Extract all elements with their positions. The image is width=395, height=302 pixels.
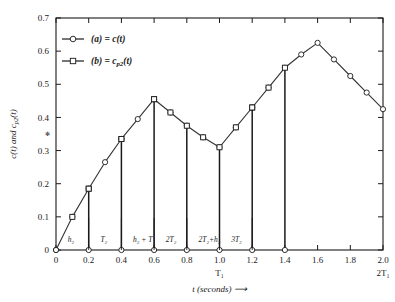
data-point-b [184,123,189,128]
data-point-b [266,85,271,90]
data-point-a [331,57,336,62]
annotation-label: 2T₂+h₂ [199,235,221,244]
x-tick-label: 1.6 [312,255,324,265]
data-point-b [152,97,157,102]
data-point-b [168,110,173,115]
legend-marker-circle [70,36,76,42]
data-point-a [315,40,320,45]
y-tick-label: 0.1 [38,212,49,222]
axis-asterisk-mark: ✻ [45,131,50,137]
x-tick-label: 1.4 [279,255,291,265]
data-point-a [380,107,385,112]
y-tick-label: 0.2 [38,179,49,189]
x-tick-label: 0.8 [181,255,193,265]
x-tick-label: 1.2 [247,255,258,265]
annotation-label: h₂ [68,235,75,244]
y-tick-label: 0.5 [38,79,50,89]
data-point-b [119,136,124,141]
legend-label: (a) = c(t) [91,34,125,45]
data-point-a [299,52,304,57]
data-point-b [233,125,238,130]
data-point-a [135,116,140,121]
legend-label: (b) = cp2(t) [91,56,132,67]
y-tick-label: 0 [45,245,50,255]
annotation-label: h₂ + T [133,235,153,244]
x-secondary-label: 2T₁ [376,268,389,278]
x-tick-label: 0 [54,255,59,265]
data-point-a [348,73,353,78]
data-point-a [102,160,107,165]
y-tick-label: 0.7 [38,13,50,23]
x-tick-label: 0.4 [116,255,128,265]
legend-marker-square [70,58,75,63]
data-point-b [282,65,287,70]
annotation-label: T₂ [100,235,107,244]
y-axis-title: c(t) and cp2(t) [8,109,19,158]
y-tick-label: 0.6 [38,46,50,56]
y-tick-label: 0.4 [38,113,50,123]
chart-svg: 00.20.40.60.81.01.21.41.61.82.000.10.20.… [0,0,395,302]
x-tick-label: 1.0 [214,255,226,265]
x-tick-label: 1.8 [345,255,357,265]
x-axis-title: t (seconds) ⟶ [192,284,247,294]
data-point-b [70,214,75,219]
annotation-label: 2T₂ [166,235,177,244]
y-tick-label: 0.3 [38,146,50,156]
chart-figure: 00.20.40.60.81.01.21.41.61.82.000.10.20.… [0,0,395,302]
x-secondary-label: T₁ [215,268,224,278]
x-tick-label: 0.6 [148,255,160,265]
data-point-b [201,135,206,140]
data-point-b [250,105,255,110]
data-point-a [364,90,369,95]
x-tick-label: 2.0 [377,255,389,265]
data-point-b [86,186,91,191]
data-point-b [217,145,222,150]
baseline-point [282,247,287,252]
x-tick-label: 0.2 [83,255,94,265]
baseline-point [53,247,58,252]
annotation-label: 3T₂ [230,235,242,244]
